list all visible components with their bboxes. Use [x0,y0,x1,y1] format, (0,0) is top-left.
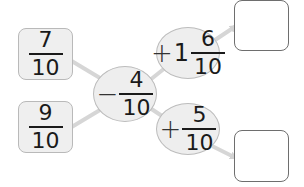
numerator: 7 [36,29,56,53]
denominator: 10 [119,95,153,119]
input-fraction-box-2: 9 10 [18,101,73,153]
denominator: 10 [182,130,216,154]
numerator: 9 [36,102,56,126]
denominator: 10 [29,128,63,152]
connector-input2-center [70,110,100,128]
denominator: 10 [191,54,225,78]
plus-operator: + [151,40,173,66]
center-operation: − 4 10 [93,66,157,122]
answer-box-bottom[interactable] [234,130,289,182]
top-branch-operation: + 1 6 10 [156,27,220,79]
connector-input1-center [70,60,100,78]
denominator: 10 [29,55,63,79]
numerator: 5 [189,104,209,128]
bottom-branch-operation: + 5 10 [156,103,220,155]
numerator: 6 [198,28,218,52]
minus-operator: − [97,81,119,107]
fraction: 5 10 [182,104,216,154]
numerator: 4 [126,69,146,93]
input-fraction-box-1: 7 10 [18,28,73,80]
fraction: 4 10 [119,69,153,119]
fraction: 7 10 [29,29,63,79]
fraction: 6 10 [191,28,225,78]
plus-operator: + [160,116,182,142]
fraction: 9 10 [29,102,63,152]
answer-box-top[interactable] [234,0,289,51]
whole-number: 1 [174,39,189,67]
